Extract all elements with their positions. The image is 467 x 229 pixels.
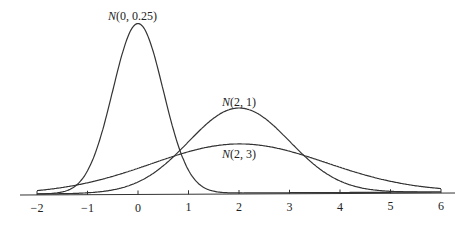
x-tick-label: 4 <box>337 200 343 214</box>
normal-distributions-chart: −2−10123456 N(0, 0.25) N(2, 1) N(2, 3) <box>0 0 467 229</box>
x-tick-label: 5 <box>388 199 394 213</box>
x-tick-label: 6 <box>438 199 444 213</box>
x-tick-label: 2 <box>236 200 242 214</box>
label-n-0-025: N(0, 0.25) <box>107 9 157 23</box>
x-tick-label: −2 <box>31 201 44 215</box>
x-tick-label: −1 <box>81 201 94 215</box>
x-tick-label: 1 <box>186 200 192 214</box>
label-n-2-1: N(2, 1) <box>221 95 256 109</box>
x-tick-label: 3 <box>287 200 293 214</box>
label-n-2-3: N(2, 3) <box>221 147 256 161</box>
x-tick-label: 0 <box>135 201 141 215</box>
